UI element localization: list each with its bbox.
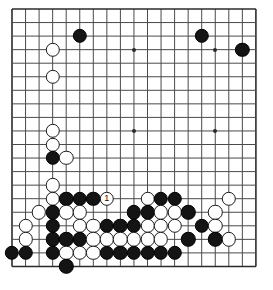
star-point-dot — [132, 48, 136, 52]
stone-move-marker[interactable]: 1 — [100, 191, 114, 205]
star-point-dot — [132, 129, 136, 133]
star-point-dot — [213, 48, 217, 52]
star-point-dot — [213, 129, 217, 133]
stone-move-number: 1 — [101, 192, 113, 204]
go-board-diagram: 1 — [0, 0, 273, 290]
